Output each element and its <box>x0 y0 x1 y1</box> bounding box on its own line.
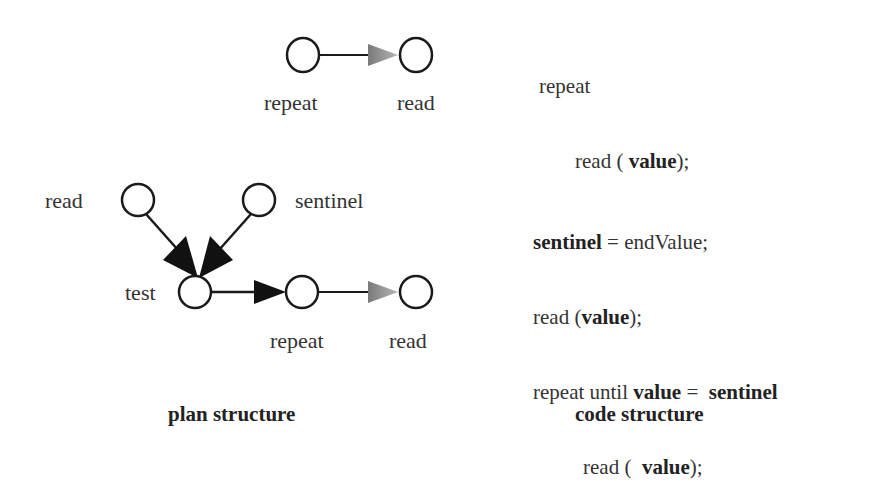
code-line: repeat <box>539 74 689 99</box>
node-read <box>122 184 154 216</box>
label-read: read <box>45 190 83 212</box>
code-line: read ( value); <box>539 149 689 174</box>
bottom-code-block: sentinel = endValue; read (value); repea… <box>533 180 778 483</box>
label-test: test <box>125 282 156 304</box>
shaded-arrowhead-icon <box>368 281 398 303</box>
code-line: read ( value); <box>533 455 778 480</box>
label-repeat: repeat <box>270 330 324 352</box>
arrowhead-icon <box>199 236 233 278</box>
top-plan-graph <box>287 38 432 72</box>
top-code-block: repeat read ( value); <box>539 24 689 199</box>
node-repeat <box>286 276 318 308</box>
edge-read-test <box>146 214 178 250</box>
code-line: sentinel = endValue; <box>533 230 778 255</box>
node-sentinel <box>243 184 275 216</box>
label-sentinel: sentinel <box>295 190 363 212</box>
label-read: read <box>389 330 427 352</box>
edge-sentinel-test <box>219 214 251 250</box>
arrowhead-icon <box>163 236 198 278</box>
code-line: read (value); <box>533 305 778 330</box>
node-repeat <box>287 38 319 72</box>
node-test <box>179 276 211 308</box>
arrowhead-icon <box>254 280 286 304</box>
bottom-plan-graph <box>122 184 432 308</box>
node-read <box>400 276 432 308</box>
shaded-arrowhead-icon <box>368 44 398 66</box>
caption-plan-structure: plan structure <box>168 402 295 427</box>
node-read <box>400 38 432 72</box>
caption-code-structure: code structure <box>575 402 704 427</box>
label-repeat: repeat <box>264 92 318 114</box>
label-read: read <box>397 92 435 114</box>
